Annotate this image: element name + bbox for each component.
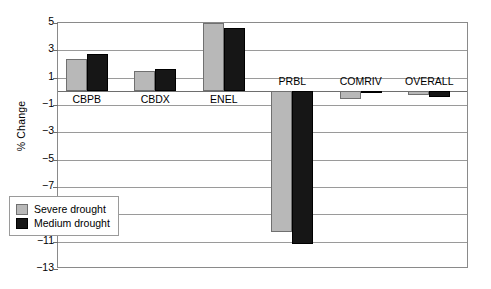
bar-overall-medium (429, 91, 450, 96)
category-label-enel: ENEL (190, 94, 259, 105)
y-tick-label: −13 (26, 262, 54, 273)
category-label-prbl: PRBL (258, 76, 327, 87)
y-tick-mark (53, 242, 58, 243)
legend-item: Medium drought (16, 216, 110, 230)
gridline (58, 242, 467, 243)
legend-label: Severe drought (34, 203, 106, 215)
gridline (58, 105, 467, 106)
category-label-cbdx: CBDX (121, 94, 190, 105)
gridline (58, 160, 467, 161)
zero-baseline (58, 91, 467, 92)
y-tick-label: 1 (26, 71, 54, 82)
y-tick-label: 5 (26, 16, 54, 27)
chart-legend: Severe droughtMedium drought (9, 196, 119, 236)
bar-prbl-severe (271, 91, 292, 232)
y-tick-label: −1 (26, 98, 54, 109)
y-tick-mark (53, 132, 58, 133)
legend-label: Medium drought (34, 217, 110, 229)
bar-cbdx-severe (134, 71, 155, 92)
gridline (58, 132, 467, 133)
y-tick-label: −3 (26, 125, 54, 136)
y-tick-mark (53, 78, 58, 79)
bar-comriv-severe (340, 91, 361, 99)
bar-cbpb-medium (87, 54, 108, 91)
bar-enel-severe (203, 23, 224, 91)
y-tick-label: −5 (26, 153, 54, 164)
y-tick-mark (53, 105, 58, 106)
y-tick-label: −11 (26, 235, 54, 246)
bar-cbdx-medium (155, 69, 176, 92)
bar-comriv-medium (361, 91, 382, 93)
y-tick-mark (53, 23, 58, 24)
gridline (58, 214, 467, 215)
legend-swatch-severe (16, 204, 28, 215)
y-tick-mark (53, 269, 58, 270)
bar-overall-severe (408, 91, 429, 95)
y-tick-label: 3 (26, 43, 54, 54)
category-label-comriv: COMRIV (327, 76, 396, 87)
bar-enel-medium (224, 28, 245, 91)
gridline (58, 187, 467, 188)
bar-cbpb-severe (66, 59, 87, 92)
y-tick-label: −7 (26, 180, 54, 191)
y-tick-mark (53, 50, 58, 51)
gridline (58, 50, 467, 51)
category-label-cbpb: CBPB (53, 94, 122, 105)
bar-prbl-medium (292, 91, 313, 244)
y-tick-mark (53, 187, 58, 188)
category-label-overall: OVERALL (395, 76, 464, 87)
legend-item: Severe drought (16, 202, 110, 216)
chart-figure: % Change 531−1−3−5−7−9−11−13 CBPBCBDXENE… (0, 0, 491, 289)
y-tick-mark (53, 160, 58, 161)
y-axis-tick-labels: 531−1−3−5−7−9−11−13 (24, 0, 54, 289)
legend-swatch-medium (16, 218, 28, 229)
